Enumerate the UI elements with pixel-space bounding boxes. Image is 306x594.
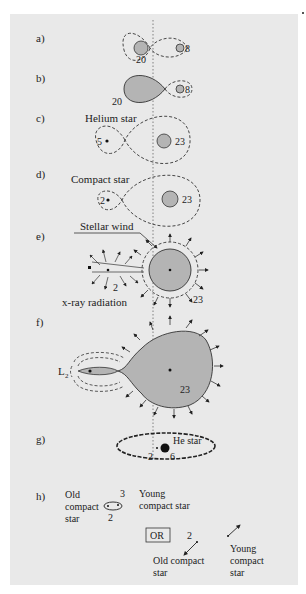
star-primary [134,41,148,55]
old-star-velocity [184,542,197,555]
panel-label: g) [36,433,46,446]
young-compact-star [117,504,119,506]
compact-star [88,266,91,269]
old-compact-star [196,541,198,543]
panel-label: h) [36,490,46,503]
panel-h: h) Old compact star 3 2 Young compact st… [36,488,264,578]
mass-label: 2 [108,512,113,523]
mass-label: 2 [148,451,153,462]
young-star-label: compact star [139,500,190,511]
panel-d: d) Compact star 2 23 [36,168,200,226]
young-star-label: Young [139,488,165,499]
panel-f: f) L 2 2 [36,316,223,418]
mass-label: 23 [180,384,190,395]
mass-label: 5 [97,136,102,147]
mass-label: 8 [185,43,190,54]
mass-label: 6 [170,451,175,462]
old-star-label: Old [65,489,80,500]
lagrange-subscript: 2 [65,372,69,380]
mass-label: 2 [113,282,118,293]
mass-label: 20 [112,96,122,107]
panel-g: g) He star 2 6 [36,433,215,462]
mass-label: 20 [136,54,146,65]
young-star-velocity [228,525,240,536]
caption-stellar-wind: Stellar wind [80,220,134,232]
star-primary-filling-lobe [124,75,165,102]
caption: Helium star [85,112,137,124]
star-overflowing [118,331,213,408]
caption: Compact star [71,173,130,185]
mass-label: 23 [175,136,185,147]
mass-label: 8 [185,84,190,95]
caption-x-ray: x-ray radiation [62,296,128,308]
mass-label: 3 [120,488,125,499]
star-secondary [157,134,171,148]
compact-star-center [107,269,110,272]
pointer-line [74,233,157,248]
panel-e: e) Stellar wind [36,220,208,308]
compact-star [156,447,158,449]
alt-old-star-label: Old compact [153,555,205,566]
alt-old-star-label: star [153,567,168,578]
old-star-label: star [65,513,80,524]
star-center [169,269,172,272]
panel-a: a) 20 8 [36,32,190,65]
caption: He star [173,435,202,446]
young-compact-star [227,535,229,537]
alt-young-star-label: star [230,567,245,578]
tight-orbit [104,502,122,510]
mass-label: 2 [187,530,192,541]
old-star-label: compact [65,501,99,512]
panel-label: a) [36,32,45,45]
panel-label: b) [36,72,46,85]
panel-label: f) [36,316,44,329]
lagrange-point-label: L [58,365,65,377]
star-center [169,369,172,372]
panel-c: c) Helium star 5 23 [36,112,190,164]
he-star [161,444,170,453]
or-label: OR [150,530,164,541]
compact-star [88,369,91,372]
alt-young-star-label: Young [230,543,256,554]
alt-young-star-label: compact [230,555,264,566]
binary-evolution-diagram: a) 20 8 b) 20 8 c) Helium star 5 23 d) C… [0,0,306,594]
mass-label: 23 [193,294,203,305]
old-compact-star [107,505,109,507]
panel-label: e) [36,230,45,243]
mass-label: 23 [182,194,192,205]
panel-b: b) 20 8 [36,72,192,107]
panel-label: d) [36,168,46,181]
mass-label: 2 [100,195,105,206]
helium-star [105,139,108,142]
panel-label: c) [36,112,45,125]
star-secondary [176,44,184,52]
star-secondary [176,85,184,93]
star-secondary [162,191,178,207]
accretion-stream [78,367,118,375]
compact-star [106,198,109,201]
